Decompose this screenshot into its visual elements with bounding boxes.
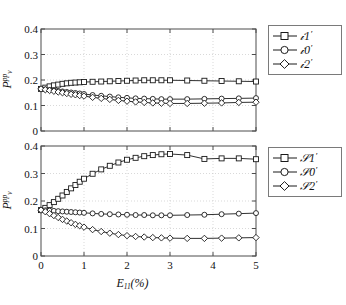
data-marker-circle — [82, 210, 87, 215]
data-series-S1p — [39, 151, 259, 212]
data-marker-diamond — [150, 234, 156, 240]
data-marker-diamond — [218, 100, 224, 106]
data-marker-circle — [133, 213, 138, 218]
legend-marker-diamond-icon — [272, 180, 298, 192]
data-marker-diamond — [218, 235, 224, 241]
x-tick-label: 4 — [210, 259, 216, 271]
legend-marker-circle-icon — [272, 44, 298, 56]
y-tick-label: 0.2 — [24, 195, 38, 207]
legend-marker-square-icon — [272, 152, 298, 164]
data-marker-square — [116, 160, 121, 165]
legend-marker-square-icon — [272, 30, 298, 42]
data-marker-square — [202, 156, 207, 161]
data-marker-square — [150, 78, 155, 83]
data-marker-square — [125, 78, 130, 83]
y-axis-label: Pppv — [0, 191, 15, 209]
data-marker-square — [150, 153, 155, 158]
data-marker-square — [159, 152, 164, 157]
legend-item-s1[interactable]: 𝒮1′ — [272, 151, 337, 165]
y-tick-label: 0.4 — [24, 23, 38, 35]
data-marker-square — [202, 78, 207, 83]
x-tick-label: 1 — [81, 259, 87, 271]
y-tick-label: 0.1 — [24, 100, 38, 112]
data-series-S0p — [39, 208, 259, 218]
data-marker-circle — [254, 211, 259, 216]
legend-item-w0[interactable]: 𝒾0′ — [272, 43, 337, 57]
data-marker-circle — [142, 213, 147, 218]
y-tick-label: 0.1 — [24, 223, 38, 235]
legend-item-s2[interactable]: 𝒮2′ — [272, 179, 337, 193]
data-marker-diamond — [107, 230, 113, 236]
data-marker-circle — [168, 213, 173, 218]
data-marker-circle — [116, 212, 121, 217]
legend-label-s2: 𝒮2′ — [298, 179, 317, 193]
legend-label-s1: 𝒮1′ — [298, 151, 317, 165]
data-marker-circle — [150, 213, 155, 218]
legend-top: 𝒾1′ 𝒾0′ 𝒾2′ — [268, 25, 342, 75]
data-marker-circle — [90, 211, 95, 216]
data-marker-square — [99, 167, 104, 172]
data-marker-square — [159, 78, 164, 83]
legend-label-w0: 𝒾0′ — [298, 43, 312, 57]
data-marker-square — [236, 79, 241, 84]
legend-label-s0: 𝒮0′ — [298, 165, 317, 179]
data-marker-circle — [107, 212, 112, 217]
data-marker-square — [107, 79, 112, 84]
legend-marker-diamond-icon — [272, 58, 298, 70]
data-marker-square — [125, 157, 130, 162]
data-marker-square — [133, 78, 138, 83]
data-marker-circle — [219, 212, 224, 217]
y-tick-label: 0.3 — [24, 168, 38, 180]
y-tick-label: 0.3 — [24, 49, 38, 61]
data-marker-diamond — [184, 100, 190, 106]
data-series-W2p — [38, 86, 259, 107]
data-marker-circle — [202, 212, 207, 217]
series-line — [41, 154, 256, 210]
legend-label-w1: 𝒾1′ — [298, 29, 312, 43]
data-marker-square — [90, 79, 95, 84]
data-marker-circle — [159, 213, 164, 218]
data-marker-diamond — [141, 234, 147, 240]
data-marker-circle — [125, 212, 130, 217]
data-marker-diamond — [201, 235, 207, 241]
data-marker-square — [254, 79, 259, 84]
data-marker-square — [142, 78, 147, 83]
data-marker-square — [236, 156, 241, 161]
data-marker-diamond — [167, 235, 173, 241]
legend-item-s0[interactable]: 𝒮0′ — [272, 165, 337, 179]
data-marker-square — [99, 79, 104, 84]
data-marker-square — [107, 163, 112, 168]
y-tick-label: 0 — [33, 250, 39, 262]
data-marker-diamond — [124, 232, 130, 238]
y-tick-label: 0.4 — [24, 140, 38, 152]
data-marker-diamond — [158, 235, 164, 241]
data-marker-diamond — [184, 235, 190, 241]
data-marker-square — [168, 78, 173, 83]
legend-marker-circle-icon — [272, 166, 298, 178]
legend-item-w1[interactable]: 𝒾1′ — [272, 29, 337, 43]
data-marker-circle — [99, 211, 104, 216]
data-marker-square — [254, 157, 259, 162]
plot-area-top — [0, 0, 265, 150]
data-marker-square — [90, 171, 95, 176]
legend-label-w2: 𝒾2′ — [298, 57, 312, 71]
data-marker-square — [168, 151, 173, 156]
data-marker-diamond — [115, 231, 121, 237]
x-tick-label: 0 — [38, 259, 44, 271]
data-marker-square — [185, 78, 190, 83]
data-marker-diamond — [98, 228, 104, 234]
data-marker-square — [116, 79, 121, 84]
x-tick-label: 5 — [253, 259, 259, 271]
data-marker-diamond — [236, 235, 242, 241]
chart-panel-bottom: 00.10.20.30.4012345PppvE11(%) — [0, 135, 265, 305]
x-tick-label: 2 — [124, 259, 130, 271]
data-marker-square — [219, 156, 224, 161]
data-marker-diamond — [253, 234, 259, 240]
data-marker-square — [219, 79, 224, 84]
data-marker-square — [82, 176, 87, 181]
data-marker-square — [142, 154, 147, 159]
figure-container: 00.10.20.30.4Pppv 00.10.20.30.4012345Ppp… — [0, 0, 346, 305]
legend-item-w2[interactable]: 𝒾2′ — [272, 57, 337, 71]
y-tick-label: 0.2 — [24, 74, 38, 86]
data-marker-diamond — [89, 226, 95, 232]
